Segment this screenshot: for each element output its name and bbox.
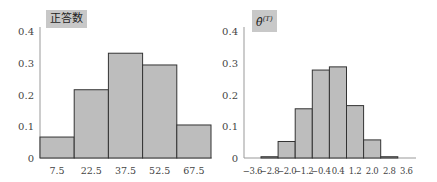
y-tick-label: 0.2: [18, 90, 34, 101]
chart-right: θ̂(T) 00.10.20.30.4−3.6−2.8−2.0−1.2−0.40…: [220, 0, 437, 182]
histogram-bar: [40, 137, 74, 158]
y-tick-label: 0.1: [18, 121, 34, 132]
x-tick-label: 22.5: [81, 165, 102, 176]
x-tick-label: 0.4: [332, 166, 345, 176]
chart-left: 正答数 00.10.20.30.47.522.537.552.567.5: [0, 0, 220, 182]
histogram-bar: [347, 106, 364, 158]
histogram-bar: [312, 70, 329, 158]
x-tick-label: 2.0: [366, 166, 379, 176]
x-tick-label: 37.5: [115, 165, 136, 176]
x-tick-label: 2.8: [383, 166, 396, 176]
y-tick-label: 0.3: [18, 58, 34, 69]
x-tick-label: 7.5: [50, 165, 65, 176]
y-tick-label: 0.4: [18, 26, 34, 37]
x-tick-label: 3.6: [400, 166, 413, 176]
histogram-bar: [329, 67, 346, 158]
histogram-bar: [108, 53, 142, 158]
histogram-theta: 00.10.20.30.4−3.6−2.8−2.0−1.2−0.40.41.22…: [220, 0, 437, 182]
y-tick-label: 0.1: [222, 121, 238, 132]
y-tick-label: 0: [232, 153, 238, 164]
histogram-bar: [261, 157, 278, 158]
x-tick-label: −0.4: [311, 166, 330, 176]
histogram-bar: [278, 141, 295, 158]
histogram-bar: [364, 140, 381, 158]
histogram-correct-answers: 00.10.20.30.47.522.537.552.567.5: [0, 0, 220, 182]
histogram-bar: [143, 65, 177, 158]
histogram-bar: [381, 157, 398, 158]
y-tick-label: 0: [28, 153, 34, 164]
x-tick-label: 67.5: [183, 165, 204, 176]
y-tick-label: 0.3: [222, 58, 238, 69]
histogram-bar: [74, 90, 108, 158]
y-tick-label: 0.2: [222, 90, 238, 101]
y-tick-label: 0.4: [222, 26, 238, 37]
histogram-bar: [177, 125, 211, 158]
x-tick-label: 52.5: [149, 165, 170, 176]
x-tick-label: 1.2: [349, 166, 362, 176]
histogram-bar: [295, 109, 312, 158]
